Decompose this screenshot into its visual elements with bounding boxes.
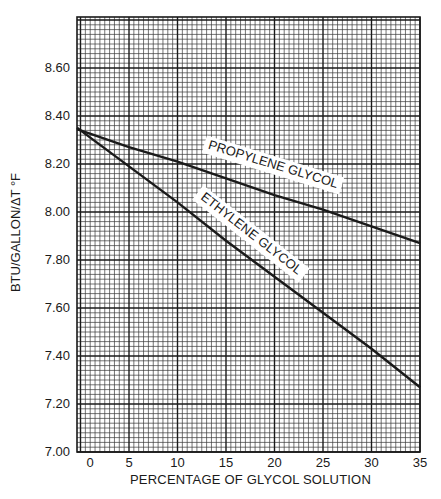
x-tick-label: 20 <box>260 455 290 470</box>
y-tick-label: 7.20 <box>30 396 70 411</box>
x-axis-label: PERCENTAGE OF GLYCOL SOLUTION <box>0 472 441 487</box>
y-tick-label: 8.20 <box>30 156 70 171</box>
x-tick-label: 15 <box>211 455 241 470</box>
x-tick-label: 30 <box>357 455 387 470</box>
x-tick-label: 10 <box>163 455 193 470</box>
y-tick-label: 8.60 <box>30 60 70 75</box>
y-axis-label: BTU/GALLON/ΔT °F <box>8 148 23 318</box>
y-tick-label: 7.40 <box>30 348 70 363</box>
y-tick-label: 8.00 <box>30 204 70 219</box>
x-tick-label: 5 <box>114 455 144 470</box>
y-tick-label: 7.60 <box>30 300 70 315</box>
x-tick-label: 0 <box>75 455 105 470</box>
x-tick-label: 35 <box>405 455 435 470</box>
y-tick-label: 8.40 <box>30 108 70 123</box>
y-tick-label: 7.80 <box>30 252 70 267</box>
y-tick-label: 7.00 <box>30 444 70 459</box>
x-tick-label: 25 <box>308 455 338 470</box>
